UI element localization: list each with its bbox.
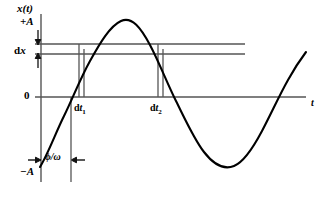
figure-canvas xyxy=(0,0,323,200)
dt2-label: dt2 xyxy=(150,103,162,116)
shm-figure: x(t) +A dx 0 −A ϕ/ω t dt1 dt2 xyxy=(0,0,323,200)
y-axis-min-label: −A xyxy=(20,166,34,177)
phase-offset-label: ϕ/ω xyxy=(45,152,61,162)
x-axis-title: t xyxy=(311,98,314,108)
dx-arrow-down xyxy=(35,30,41,45)
dx-arrow-up xyxy=(35,53,41,68)
phase-arrow-left xyxy=(71,157,85,163)
sine-curve xyxy=(40,20,306,167)
dx-label-variable: x xyxy=(20,44,26,56)
y-axis-title: x(t) xyxy=(17,3,33,14)
phase-arrow-right xyxy=(28,157,41,163)
y-axis-max-label: +A xyxy=(20,16,34,27)
dt2-subscript: 2 xyxy=(158,108,162,116)
dx-label: dx xyxy=(14,45,26,56)
dt1-label: dt1 xyxy=(74,103,86,116)
origin-label: 0 xyxy=(24,90,30,101)
dt1-subscript: 1 xyxy=(82,108,86,116)
